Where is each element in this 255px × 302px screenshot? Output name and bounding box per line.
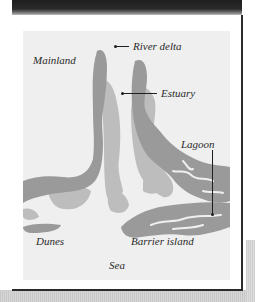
label-lagoon: Lagoon bbox=[181, 139, 215, 150]
label-barrier-island: Barrier island bbox=[131, 236, 194, 247]
map-area: River delta Mainland Estuary Lagoon Dune… bbox=[23, 31, 230, 280]
river-delta-leader bbox=[116, 46, 129, 47]
lagoon-leader bbox=[212, 150, 213, 214]
label-mainland: Mainland bbox=[33, 55, 76, 66]
estuary-leader bbox=[123, 93, 157, 94]
label-river-delta: River delta bbox=[133, 41, 182, 52]
right-shadow-strip bbox=[246, 240, 255, 302]
label-dunes: Dunes bbox=[36, 236, 64, 247]
bottom-shadow-strip bbox=[0, 290, 255, 302]
label-sea: Sea bbox=[109, 260, 125, 271]
label-estuary: Estuary bbox=[161, 88, 195, 99]
top-header-bar bbox=[12, 0, 242, 15]
lagoon-marker bbox=[211, 213, 214, 216]
